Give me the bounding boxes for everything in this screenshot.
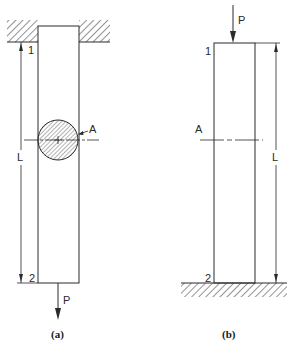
bar-loading-diagram: A L 1 2 P (a) P A [0, 0, 299, 353]
area-label-a: A [89, 123, 97, 135]
length-dimension-b [255, 43, 280, 283]
caption-b: (b) [222, 328, 236, 341]
length-label-b: L [272, 151, 278, 163]
bottom-fixed-support [181, 283, 287, 297]
end-1-label-b: 1 [205, 45, 211, 57]
load-arrow-a [55, 283, 61, 320]
figure-a: A L 1 2 P (a) [7, 20, 110, 341]
length-label-a: L [17, 151, 23, 163]
cross-section-a [24, 120, 99, 160]
end-2-label-b: 2 [205, 272, 211, 284]
top-fixed-support [7, 20, 110, 42]
load-label-a: P [63, 294, 70, 306]
end-1-label-a: 1 [28, 44, 34, 56]
bar-b [214, 43, 255, 283]
area-label-b: A [195, 123, 203, 135]
caption-a: (a) [51, 328, 64, 341]
figure-b: P A L 1 2 (b) [181, 5, 287, 341]
load-label-b: P [238, 14, 245, 26]
end-2-label-a: 2 [29, 272, 35, 284]
load-arrow-b [230, 5, 236, 43]
